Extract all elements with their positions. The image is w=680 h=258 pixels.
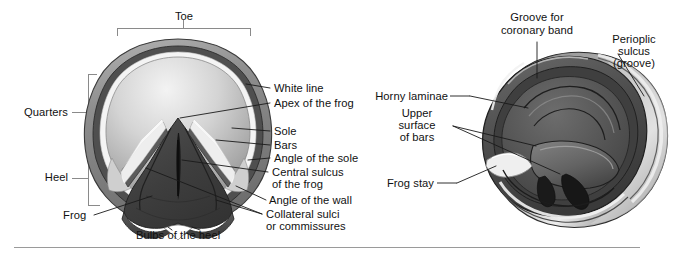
label-bulbs-of-the-heel: Bulbs of the heel <box>136 229 220 242</box>
right-hoof-art <box>483 52 669 227</box>
label-frog-stay: Frog stay <box>348 177 434 190</box>
hoof-anatomy-figure: Toe Quarters Heel White line Apex of the… <box>0 0 680 258</box>
label-quarters: Quarters <box>2 106 68 119</box>
label-angle-of-the-sole: Angle of the sole <box>274 152 358 165</box>
label-groove-coronary-line1: Groove for <box>477 11 597 24</box>
label-bars: Bars <box>274 139 297 152</box>
label-frog: Frog <box>63 209 86 222</box>
label-perioplic-line3: (groove) <box>596 57 672 70</box>
label-horny-laminae: Horny laminae <box>330 90 448 103</box>
label-central-sulcus-line2: of the frog <box>272 178 323 191</box>
label-heel: Heel <box>2 171 68 184</box>
figure-divider-rule <box>14 247 640 248</box>
left-hoof-art <box>84 39 271 240</box>
label-collateral-sulci-line2: or commissures <box>266 220 346 233</box>
label-white-line: White line <box>274 82 324 95</box>
label-sole: Sole <box>274 125 297 138</box>
label-toe: Toe <box>154 10 214 23</box>
label-angle-of-the-wall: Angle of the wall <box>269 194 352 207</box>
label-upper-surface-line3: of bars <box>386 131 448 144</box>
label-groove-coronary-line2: coronary band <box>477 24 597 37</box>
